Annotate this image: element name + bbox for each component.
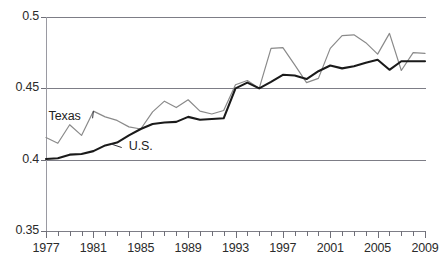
y-axis-tick-label: 0.5: [22, 9, 39, 23]
y-axis-tick-label: 0.4: [22, 152, 39, 166]
line-chart-plot: [0, 0, 446, 271]
series-label-us: U.S.: [129, 139, 153, 153]
y-axis-tick-label: 0.45: [15, 80, 39, 94]
x-axis-tick-label: 1981: [71, 241, 115, 255]
x-axis-tick-label: 1993: [214, 241, 258, 255]
series-label-texas: Texas: [49, 109, 81, 123]
x-axis-tick-label: 1977: [24, 241, 68, 255]
x-axis-tick-label: 1997: [261, 241, 305, 255]
x-axis-tick-label: 1985: [119, 241, 163, 255]
x-axis-tick-label: 2009: [403, 241, 446, 255]
gridlines: [46, 18, 426, 232]
data-series: [46, 33, 425, 159]
chart-container: 0.50.450.40.35 1977198119851989199319972…: [0, 0, 446, 271]
y-axis-tick-label: 0.35: [15, 223, 39, 237]
x-axis-tick-label: 1989: [166, 241, 210, 255]
x-axis-tick-label: 2005: [356, 241, 400, 255]
x-axis-tick-label: 2001: [308, 241, 352, 255]
x-axis-ticks: [41, 18, 426, 239]
